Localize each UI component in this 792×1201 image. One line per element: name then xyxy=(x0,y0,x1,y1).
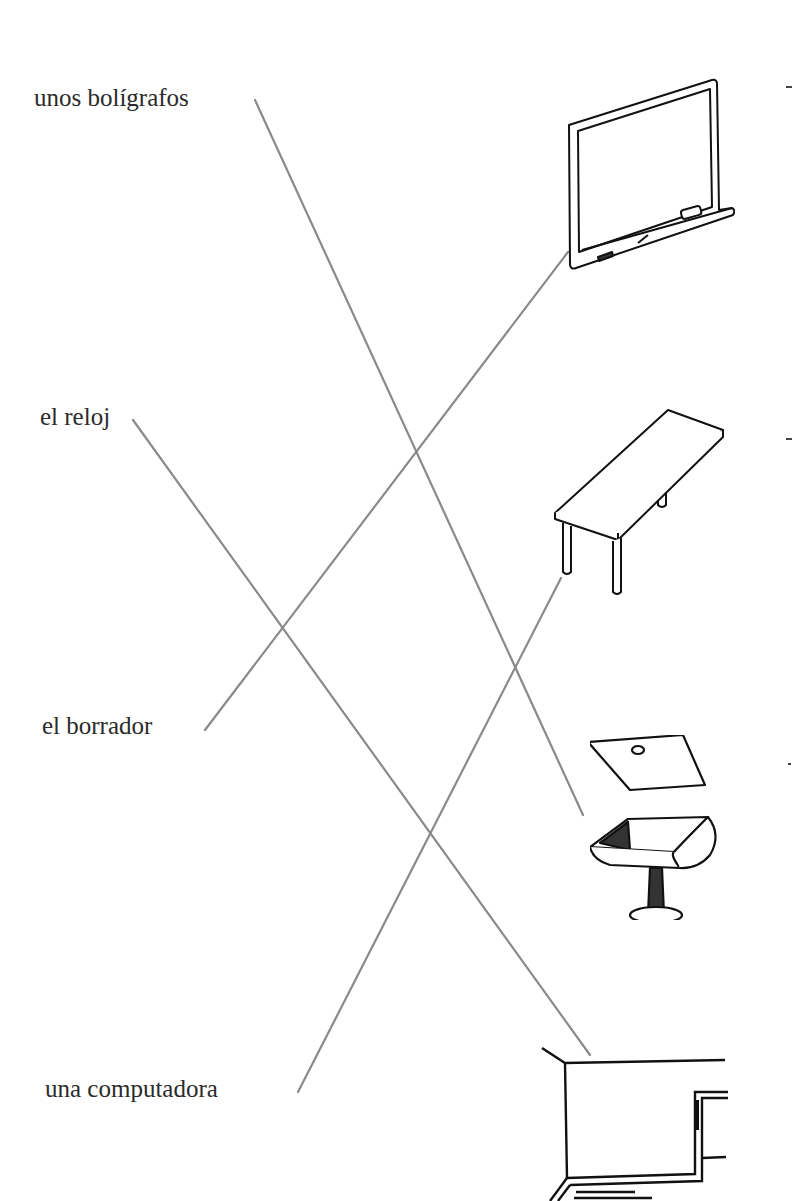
edge-mark xyxy=(786,438,792,440)
match-line-borrador-chalkboard[interactable] xyxy=(205,252,568,730)
chalkboard-icon[interactable] xyxy=(560,75,735,275)
table-icon[interactable] xyxy=(550,405,730,595)
teacher-desk-icon[interactable] xyxy=(540,1040,732,1201)
match-line-computadora-table[interactable] xyxy=(298,578,561,1092)
student-desk-icon[interactable] xyxy=(590,735,735,920)
match-line-boligrafos-desk[interactable] xyxy=(255,100,583,815)
edge-mark xyxy=(786,86,792,88)
edge-mark xyxy=(788,763,791,765)
match-line-reloj-teacher-desk[interactable] xyxy=(133,420,590,1055)
